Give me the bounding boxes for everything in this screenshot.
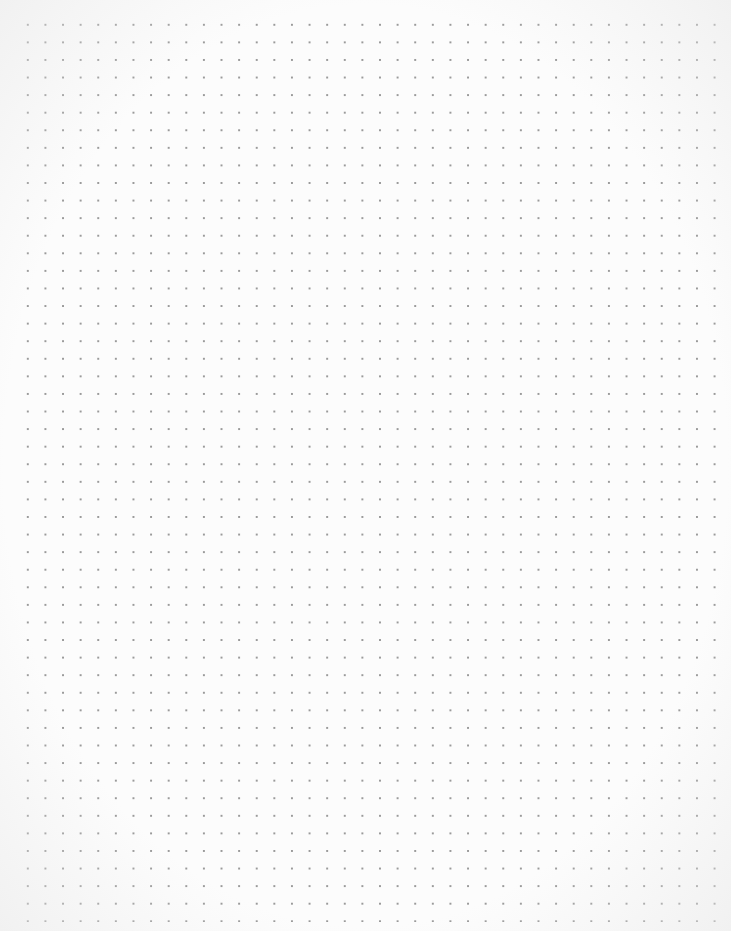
dot-grid-pattern	[19, 16, 731, 922]
dot-grid-paper	[0, 0, 731, 931]
